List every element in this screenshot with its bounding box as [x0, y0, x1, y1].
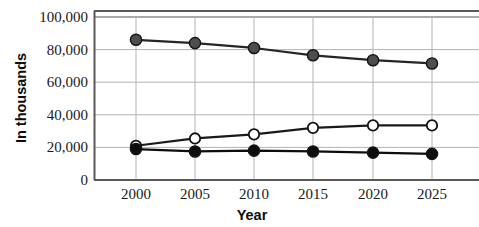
y-axis-title: In thousands [13, 53, 29, 143]
data-point [307, 146, 318, 157]
data-point [307, 50, 318, 61]
y-tick-label: 20,000 [47, 139, 88, 155]
x-tick-label: 2025 [417, 186, 447, 202]
data-point [189, 146, 200, 157]
data-point [427, 120, 437, 130]
y-tick-label: 40,000 [47, 107, 88, 123]
x-axis-title: Year [237, 207, 268, 223]
data-point [426, 148, 437, 159]
data-point [367, 147, 378, 158]
data-point [426, 58, 437, 69]
line-chart: 100,000 80,000 60,000 40,000 20,000 0 20… [0, 0, 479, 227]
data-point [249, 129, 259, 139]
x-tick-labels: 2000 2005 2010 2015 2020 2025 [121, 186, 447, 202]
chart-canvas: 100,000 80,000 60,000 40,000 20,000 0 20… [0, 0, 479, 227]
y-tick-label: 80,000 [47, 42, 88, 58]
x-tick-label: 2000 [121, 186, 151, 202]
y-tick-label: 100,000 [39, 9, 88, 25]
y-tick-labels: 100,000 80,000 60,000 40,000 20,000 0 [39, 9, 88, 188]
data-point [367, 55, 378, 66]
y-tick-label: 0 [81, 172, 89, 188]
data-point [130, 34, 141, 45]
data-point [189, 37, 200, 48]
data-point [190, 133, 200, 143]
x-tick-label: 2015 [298, 186, 328, 202]
x-tick-label: 2010 [239, 186, 269, 202]
x-tick-label: 2020 [358, 186, 388, 202]
data-point [368, 120, 378, 130]
data-point [248, 42, 259, 53]
y-tick-label: 60,000 [47, 74, 88, 90]
x-tick-label: 2005 [180, 186, 210, 202]
data-point [308, 123, 318, 133]
data-point [130, 143, 141, 154]
data-point [248, 145, 259, 156]
